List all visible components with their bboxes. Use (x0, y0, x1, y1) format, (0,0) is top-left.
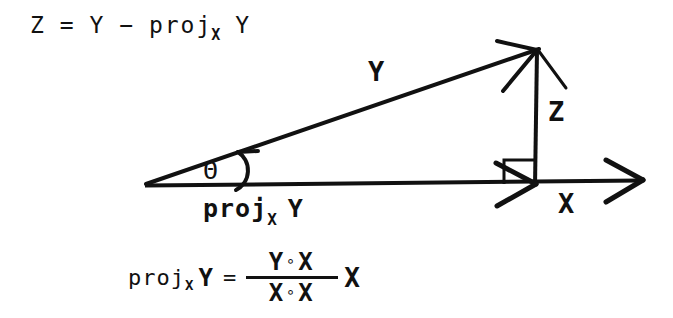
eq-bottom-proj: proj (128, 267, 185, 289)
eq-bottom-operand: Y (198, 266, 212, 290)
label-vector-z: Z (548, 98, 564, 125)
y-vector-arrowhead (497, 41, 537, 91)
eq-top-proj: proj (149, 12, 212, 38)
x-axis-line (145, 181, 641, 186)
equation-bottom: projXY = Y∘X X∘X X (128, 248, 360, 307)
eq-top-subscript: X (211, 26, 220, 44)
vector-projection-figure: Z = Y − projX Y Y Z X Θ projXY projXY = … (0, 0, 673, 318)
numerator-operator: ∘ (286, 252, 298, 270)
eq-top-equals: = (60, 12, 76, 38)
eq-top-term2: Y (235, 12, 251, 38)
numerator-right: X (298, 248, 315, 276)
eq-bottom-multiplier: X (344, 265, 360, 291)
eq-bottom-subscript: X (185, 278, 193, 292)
denominator-right: X (298, 279, 315, 307)
label-vector-x: X (558, 190, 574, 217)
denominator-left: X (269, 279, 286, 307)
label-projection-subscript: X (267, 210, 278, 229)
equation-top: Z = Y − projX Y (30, 14, 251, 37)
fraction-numerator: Y∘X (265, 248, 320, 276)
label-projection-operand: Y (288, 194, 304, 223)
fraction: Y∘X X∘X (246, 248, 338, 307)
fraction-denominator: X∘X (265, 279, 320, 307)
y-tip-extra-strokes (538, 50, 566, 88)
eq-top-lhs: Z (30, 12, 46, 38)
denominator-operator: ∘ (286, 283, 298, 301)
numerator-left: Y (269, 248, 286, 276)
eq-top-term1: Y (89, 12, 105, 38)
label-projection: projXY (203, 196, 304, 221)
label-angle-theta: Θ (203, 158, 218, 183)
eq-top-minus: − (119, 12, 135, 38)
z-vector-line (535, 50, 537, 186)
label-vector-y: Y (368, 58, 384, 85)
projection-arrowhead (496, 163, 536, 206)
eq-bottom-equals: = (223, 267, 236, 289)
label-projection-proj: proj (203, 194, 267, 223)
